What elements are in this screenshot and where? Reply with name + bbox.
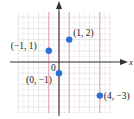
point-label: (−1, 1) (11, 41, 37, 52)
data-point (97, 92, 103, 98)
x-axis-arrow-icon (120, 59, 128, 65)
point-label: (0, −1) (26, 75, 52, 86)
data-point (56, 70, 62, 76)
point-label: (4, −3) (104, 91, 130, 102)
x-axis-label: x (128, 57, 133, 67)
origin-label: 0 (51, 63, 56, 73)
data-point (66, 36, 72, 42)
y-axis-arrow-icon (56, 1, 62, 9)
coordinate-plane: x 0 (−1, 1)(1, 2)(0, −1)(4, −3) (0, 0, 134, 119)
data-point (46, 48, 52, 54)
point-label: (1, 2) (73, 28, 94, 39)
